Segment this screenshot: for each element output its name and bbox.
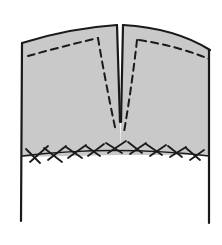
left-facing-panel bbox=[21, 25, 121, 157]
left-side-edge bbox=[21, 43, 22, 221]
sewing-diagram bbox=[0, 0, 222, 245]
